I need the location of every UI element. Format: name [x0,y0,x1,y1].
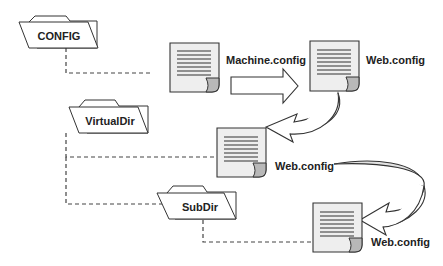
page-curl [206,78,219,92]
folder-label-virtualdir: VirtualDir [85,115,135,127]
folder-subdir: SubDir [157,186,236,219]
curved-arrow-root-to-virtualdir [266,93,340,142]
page-curl [346,77,359,91]
connector-config-to-machine-config [66,48,152,73]
label-virtualdir-web-config: Web.config [275,160,334,172]
document-machine-config [170,43,219,92]
folder-virtualdir: VirtualDir [69,100,148,133]
page-curl [349,238,362,252]
label-machine-config: Machine.config [226,54,306,66]
folder-label-subdir: SubDir [182,201,219,213]
folder-config: CONFIG [19,16,98,48]
block-arrow-right [231,69,298,103]
label-subdir-web-config: Web.config [371,236,430,248]
connector-virtualdir-to-webconfig [66,133,216,157]
page-curl [253,163,266,177]
connector-virtualdir-to-subdir [66,157,162,204]
folder-label-config: CONFIG [38,30,81,42]
document-virtualdir-web-config [217,128,266,177]
document-root-web-config [310,41,359,91]
document-subdir-web-config [313,203,362,252]
connector-subdir-to-webconfig [203,220,313,242]
config-inheritance-diagram: CONFIG VirtualDir SubDir Machine.config [0,0,443,266]
label-root-web-config: Web.config [366,54,425,66]
